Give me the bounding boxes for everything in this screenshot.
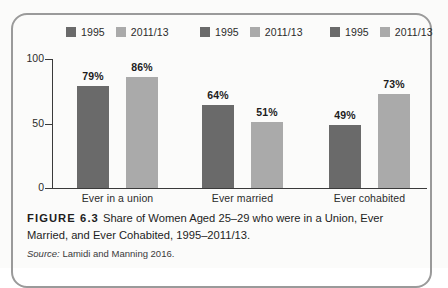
- x-category-label-ever-cohabited: Ever cohabited: [334, 192, 405, 204]
- bar-ever-in-a-union-2011-13[interactable]: 86%: [126, 77, 158, 188]
- bar-value-label: 79%: [82, 70, 103, 82]
- bar-ever-in-a-union-1995[interactable]: 79%: [77, 86, 109, 188]
- bar-ever-married-1995[interactable]: 64%: [202, 105, 234, 188]
- bar-value-label: 73%: [383, 78, 404, 90]
- bar-ever-cohabited-1995[interactable]: 49%: [329, 125, 361, 188]
- bar-value-label: 64%: [207, 89, 228, 101]
- bar-ever-married-2011-13[interactable]: 51%: [251, 122, 283, 188]
- bar-value-label: 51%: [256, 106, 277, 118]
- source-text: Lamidi and Manning 2016.: [60, 248, 175, 259]
- figure-source-line: Source: Lamidi and Manning 2016.: [27, 248, 417, 260]
- figure-number: FIGURE 6.3: [27, 212, 99, 224]
- figure-caption: FIGURE 6.3Share of Women Aged 25–29 who …: [27, 210, 417, 243]
- source-label: Source:: [27, 248, 60, 259]
- bar-value-label: 86%: [131, 61, 152, 73]
- bar-value-label: 49%: [334, 109, 355, 121]
- x-category-label-ever-married: Ever married: [212, 192, 273, 204]
- bar-ever-cohabited-2011-13[interactable]: 73%: [378, 94, 410, 188]
- x-category-label-ever-in-a-union: Ever in a union: [82, 192, 154, 204]
